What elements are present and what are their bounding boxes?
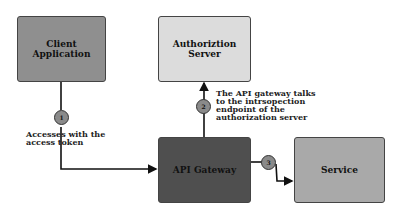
step-2-label: The API gateway talks to the intrsopecti… bbox=[216, 89, 315, 121]
api-gateway-node: API Gateway bbox=[158, 137, 251, 203]
service-node: Service bbox=[294, 137, 385, 203]
step-1-marker: 1 bbox=[54, 110, 69, 125]
authorization-server-node: Authoriztion Server bbox=[158, 16, 251, 82]
step-1-number: 1 bbox=[59, 114, 63, 121]
client-application-node: Client Application bbox=[17, 16, 106, 82]
step-3-marker: 3 bbox=[261, 155, 276, 170]
authorization-server-label: Authoriztion Server bbox=[159, 39, 250, 59]
step-3-number: 3 bbox=[266, 159, 270, 166]
service-label: Service bbox=[321, 165, 358, 175]
step-1-label-line: access token bbox=[26, 138, 105, 146]
step-1-label: Accesses with the access token bbox=[26, 130, 105, 146]
client-application-label: Client Application bbox=[18, 39, 105, 59]
step-2-marker: 2 bbox=[196, 99, 211, 114]
api-gateway-label: API Gateway bbox=[173, 165, 236, 175]
step-2-number: 2 bbox=[201, 103, 205, 110]
step-2-label-line: authorization server bbox=[216, 113, 315, 121]
